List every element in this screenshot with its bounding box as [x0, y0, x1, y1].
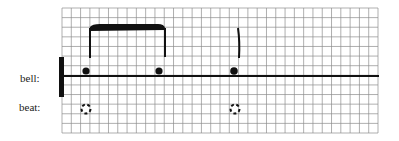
- bell-label: bell:: [20, 72, 40, 84]
- rhythm-diagram: [0, 0, 399, 141]
- bell-note-3: [230, 67, 238, 75]
- beat-label: beat:: [19, 101, 40, 113]
- beam: [90, 24, 165, 31]
- bell-note-1: [82, 67, 89, 74]
- beat-marker-2: [231, 105, 240, 114]
- note-stem-3: [238, 28, 239, 58]
- beat-marker-1: [82, 105, 91, 114]
- bell-note-2: [155, 67, 162, 74]
